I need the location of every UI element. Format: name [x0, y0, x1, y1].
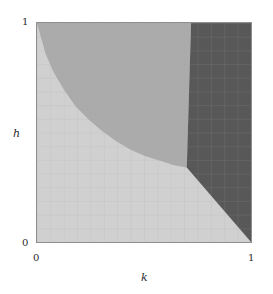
x-axis-tick-min: 0: [33, 253, 39, 263]
plot-frame: [36, 22, 252, 243]
plot-canvas: [37, 23, 251, 242]
x-axis-tick-max: 1: [248, 253, 254, 263]
region-plot-figure: 1 0 0 1 h k: [0, 0, 273, 294]
x-axis-label: k: [141, 272, 148, 283]
y-axis-tick-min: 0: [22, 238, 28, 248]
y-axis-tick-max: 1: [22, 17, 28, 27]
plot-gridlines: [37, 23, 251, 242]
y-axis-label: h: [13, 128, 20, 139]
